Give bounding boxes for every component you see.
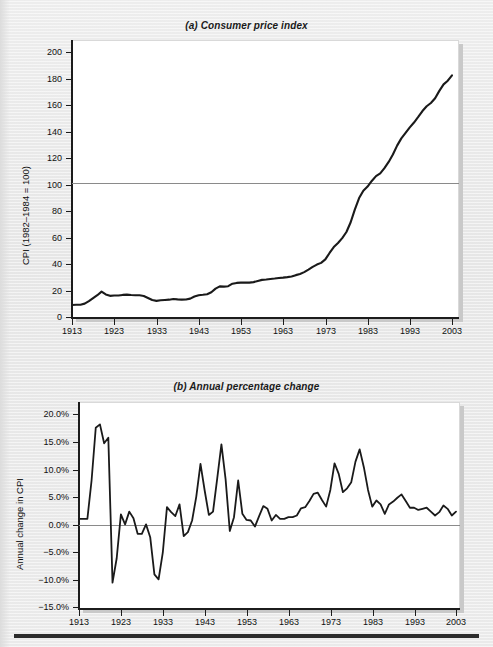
panel-b-series-line: [0, 345, 493, 647]
panel-consumer-price-index: (a) Consumer price index 0 20 40 60 80 1…: [0, 0, 493, 345]
cpi-figure: (a) Consumer price index 0 20 40 60 80 1…: [0, 0, 493, 647]
page-bottom-rule: [14, 634, 479, 638]
panel-a-series-line: [0, 0, 493, 345]
panel-annual-percentage-change: (b) Annual percentage change 20.0% 15.0%…: [0, 345, 493, 647]
